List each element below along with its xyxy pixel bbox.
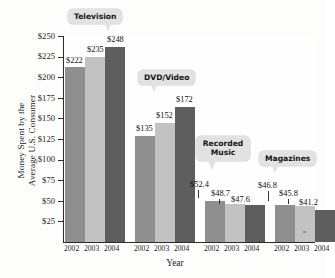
callout-recorded-music-line1: Recorded: [202, 139, 244, 148]
value-label-television-2002: $222: [66, 57, 83, 65]
bar-dvd-2004: [175, 107, 195, 242]
y-tick-label-100: $100: [38, 155, 55, 164]
value-label-television-2004: $248: [107, 36, 124, 44]
y-tick-label-25: $25: [42, 217, 55, 226]
y-axis-title-line1: Money Spent by the: [16, 41, 27, 241]
x-tick-label-music-2002: 2002: [204, 245, 219, 253]
leader-music-2002: [198, 190, 199, 198]
callout-recorded-music: Recorded Music: [196, 136, 250, 161]
y-tick-label-250: $250: [38, 32, 55, 41]
callout-television-label: Television: [74, 12, 116, 21]
leader-magazines-2002: [268, 191, 269, 201]
x-tick-label-magazines-2002: 2002: [274, 245, 289, 253]
callout-magazines-label: Magazines: [265, 154, 310, 163]
x-axis-title-label: Year: [142, 258, 183, 268]
print-smudge: [303, 231, 306, 233]
y-tick-label-50: $50: [42, 197, 55, 206]
y-axis-title-line2: Average U.S. Consumer: [26, 41, 37, 241]
x-axis-title: Year: [0, 258, 326, 268]
y-tick-label-200: $200: [38, 73, 55, 82]
value-label-dvd-2002: $135: [136, 125, 153, 133]
bar-television-2003: [85, 57, 105, 242]
x-tick-label-television-2004: 2004: [104, 245, 119, 253]
bar-dvd-2002: [135, 136, 155, 242]
value-label-music-2002: $52.4: [190, 181, 209, 189]
bar-music-2002: [205, 201, 225, 242]
bar-television-2002: [65, 67, 85, 242]
y-tick-label-125: $125: [38, 135, 55, 144]
value-label-dvd-2004: $172: [176, 96, 193, 104]
x-axis-line: [63, 242, 315, 243]
x-tick-label-music-2004: 2004: [244, 245, 259, 253]
bar-magazines-2003: [295, 206, 315, 242]
callout-recorded-music-tail: [208, 161, 216, 170]
value-label-dvd-2003: $152: [156, 112, 173, 120]
x-tick-label-magazines-2004: 2004: [314, 245, 329, 253]
callout-dvd-video: DVD/Video: [138, 70, 195, 85]
y-axis-title: Money Spent by the Average U.S. Consumer: [16, 41, 37, 241]
bar-magazines-2004: [315, 210, 335, 242]
value-label-magazines-2004: $41.2: [299, 199, 318, 207]
value-label-music-2004: $47.6: [231, 196, 250, 204]
y-tick-label-75: $75: [42, 176, 55, 185]
bars-layer: [63, 36, 315, 242]
value-label-television-2003: $235: [87, 46, 104, 54]
bar-music-2003: [225, 204, 245, 242]
x-tick-label-dvd-2004: 2004: [174, 245, 189, 253]
x-tick-label-magazines-2003: 2003: [294, 245, 309, 253]
bar-music-2004: [245, 205, 265, 242]
x-tick-label-television-2002: 2002: [64, 245, 79, 253]
callout-magazines: Magazines: [259, 151, 316, 166]
x-tick-label-dvd-2003: 2003: [154, 245, 169, 253]
value-label-magazines-2003: $45.8: [279, 190, 298, 198]
y-tick-label-150: $150: [38, 114, 55, 123]
bar-dvd-2003: [155, 123, 175, 243]
value-label-music-2003: $48.7: [211, 190, 230, 198]
callout-magazines-tail: [271, 164, 279, 173]
leader-music-2003: [219, 199, 220, 204]
leader-magazines-2003: [288, 199, 289, 204]
callout-television: Television: [68, 9, 122, 24]
callout-dvd-video-tail: [150, 83, 158, 92]
y-tick-label-175: $175: [38, 94, 55, 103]
x-tick-label-dvd-2002: 2002: [134, 245, 149, 253]
x-tick-label-music-2003: 2003: [224, 245, 239, 253]
bar-magazines-2002: [275, 205, 295, 242]
callout-dvd-video-label: DVD/Video: [144, 73, 189, 82]
callout-television-tail: [104, 22, 112, 31]
value-label-magazines-2002: $46.8: [258, 182, 277, 190]
bar-television-2004: [105, 47, 125, 242]
y-tick-label-225: $225: [38, 52, 55, 61]
x-tick-label-television-2003: 2003: [84, 245, 99, 253]
callout-recorded-music-line2: Music: [202, 148, 244, 157]
